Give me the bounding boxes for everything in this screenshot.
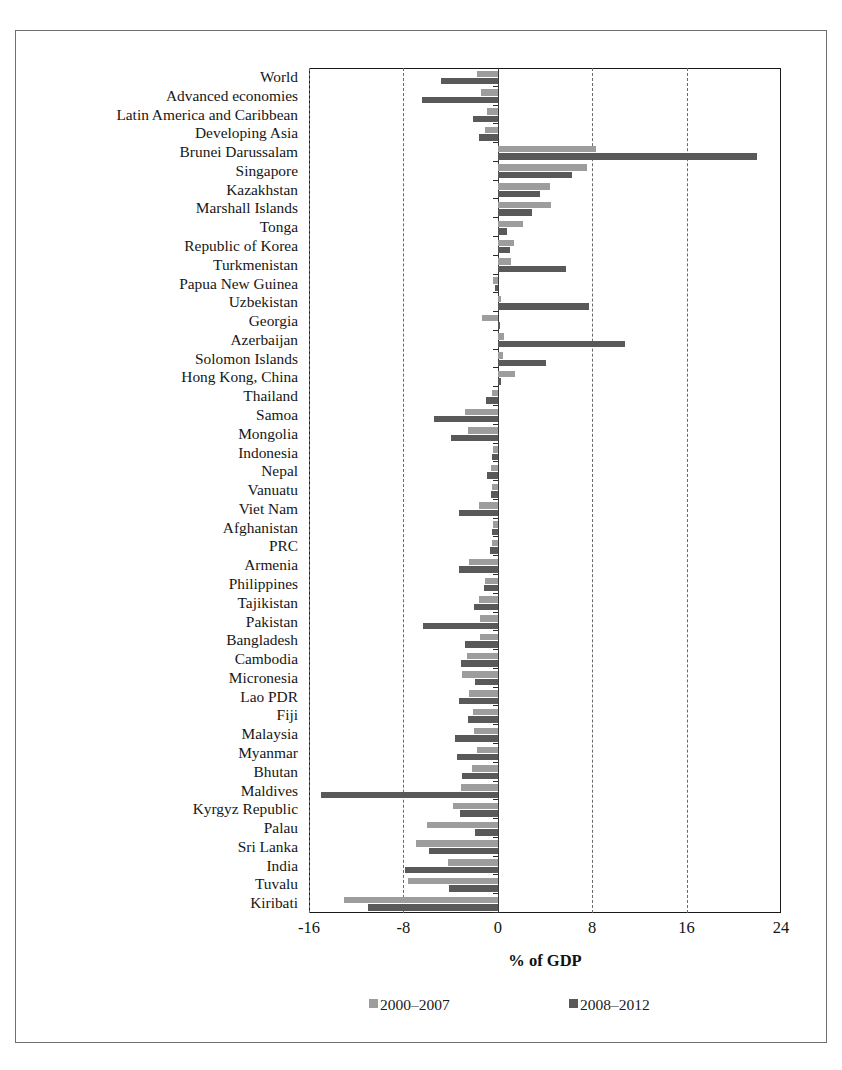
legend-item[interactable]: 2000–2007 bbox=[369, 996, 450, 1014]
bar-row bbox=[309, 537, 781, 556]
figure-panel: WorldAdvanced economiesLatin America and… bbox=[15, 30, 827, 1043]
bar-series1 bbox=[492, 540, 498, 546]
bar-row bbox=[309, 331, 781, 350]
category-label: Myanmar bbox=[238, 744, 298, 763]
bar-series1 bbox=[472, 765, 498, 771]
bar-series2 bbox=[423, 623, 497, 629]
bar-series1 bbox=[427, 822, 498, 828]
bar-row bbox=[309, 462, 781, 481]
bar-row bbox=[309, 669, 781, 688]
bar-series2 bbox=[495, 285, 497, 291]
bar-series2 bbox=[498, 360, 546, 366]
category-label: Indonesia bbox=[238, 444, 298, 463]
bar-row bbox=[309, 800, 781, 819]
bar-series1 bbox=[474, 728, 498, 734]
bar-series1 bbox=[416, 840, 497, 846]
bar-series1 bbox=[498, 258, 511, 264]
category-label: Thailand bbox=[243, 387, 298, 406]
category-label: India bbox=[266, 857, 298, 876]
bar-row bbox=[309, 275, 781, 294]
bar-series2 bbox=[498, 378, 502, 384]
bar-series1 bbox=[480, 634, 498, 640]
bar-row bbox=[309, 575, 781, 594]
bar-row bbox=[309, 838, 781, 857]
bar-row bbox=[309, 519, 781, 538]
bar-series2 bbox=[321, 792, 498, 798]
bar-series2 bbox=[492, 454, 498, 460]
chart-legend: 2000–20072008–2012 bbox=[309, 996, 809, 1022]
bar-row bbox=[309, 106, 781, 125]
bar-series2 bbox=[422, 97, 498, 103]
bar-row bbox=[309, 312, 781, 331]
category-label: Singapore bbox=[236, 162, 298, 181]
bar-series1 bbox=[498, 352, 503, 358]
bar-series1 bbox=[485, 578, 498, 584]
category-label: Samoa bbox=[256, 406, 298, 425]
category-label: Cambodia bbox=[235, 650, 298, 669]
bar-series1 bbox=[344, 897, 497, 903]
category-tick bbox=[493, 912, 498, 913]
category-label: Bhutan bbox=[254, 763, 298, 782]
bar-series1 bbox=[498, 371, 516, 377]
legend-item[interactable]: 2008–2012 bbox=[569, 996, 650, 1014]
category-label: Hong Kong, China bbox=[181, 368, 298, 387]
bar-series2 bbox=[475, 829, 497, 835]
bar-series1 bbox=[487, 108, 498, 114]
legend-label: 2000–2007 bbox=[380, 996, 450, 1014]
category-label: Advanced economies bbox=[166, 87, 298, 106]
category-label: Fiji bbox=[277, 706, 298, 725]
bar-series2 bbox=[498, 209, 532, 215]
bar-series1 bbox=[493, 446, 498, 452]
bar-series2 bbox=[429, 848, 497, 854]
bar-series1 bbox=[479, 596, 498, 602]
bar-row bbox=[309, 199, 781, 218]
bar-row bbox=[309, 218, 781, 237]
category-label: Bangladesh bbox=[226, 631, 298, 650]
bar-row bbox=[309, 406, 781, 425]
category-label: Azerbaijan bbox=[230, 331, 298, 350]
category-label: Tonga bbox=[260, 218, 298, 237]
bar-row bbox=[309, 744, 781, 763]
legend-swatch-icon bbox=[369, 999, 378, 1008]
category-label: Kiribati bbox=[250, 894, 298, 913]
bar-series2 bbox=[498, 266, 566, 272]
bar-series1 bbox=[469, 559, 497, 565]
category-label: PRC bbox=[269, 537, 298, 556]
bar-series2 bbox=[474, 604, 498, 610]
bar-series1 bbox=[498, 164, 588, 170]
bar-row bbox=[309, 481, 781, 500]
bar-series2 bbox=[491, 491, 498, 497]
bar-row bbox=[309, 237, 781, 256]
category-label: World bbox=[260, 68, 298, 87]
bar-row bbox=[309, 500, 781, 519]
bar-row bbox=[309, 350, 781, 369]
category-label: Micronesia bbox=[229, 669, 298, 688]
bar-row bbox=[309, 68, 781, 87]
category-label: Maldives bbox=[241, 782, 298, 801]
bar-row bbox=[309, 819, 781, 838]
bar-series2 bbox=[461, 660, 498, 666]
bar-series1 bbox=[477, 71, 498, 77]
x-axis-title: % of GDP bbox=[309, 951, 781, 971]
bar-series2 bbox=[498, 247, 510, 253]
bar-series2 bbox=[441, 78, 498, 84]
bar-row bbox=[309, 650, 781, 669]
plot-area bbox=[309, 68, 781, 913]
bar-series1 bbox=[498, 202, 551, 208]
bar-series1 bbox=[498, 183, 550, 189]
bar-series1 bbox=[498, 146, 596, 152]
x-tick-label: 16 bbox=[678, 917, 695, 939]
bar-row bbox=[309, 725, 781, 744]
bar-series1 bbox=[492, 390, 498, 396]
legend-swatch-icon bbox=[569, 999, 578, 1008]
bar-series1 bbox=[465, 409, 498, 415]
category-label: Nepal bbox=[261, 462, 298, 481]
bar-series2 bbox=[459, 698, 498, 704]
bar-series2 bbox=[455, 735, 497, 741]
bar-series2 bbox=[459, 510, 498, 516]
bar-series2 bbox=[459, 566, 498, 572]
category-label: Afghanistan bbox=[223, 519, 298, 538]
bar-row bbox=[309, 181, 781, 200]
bar-series1 bbox=[498, 296, 502, 302]
bar-series2 bbox=[498, 172, 572, 178]
